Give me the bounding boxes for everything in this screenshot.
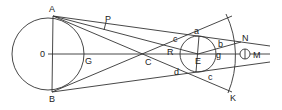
label-p: P (105, 14, 111, 24)
diameter-ab (52, 16, 53, 92)
arc-n-k (226, 14, 235, 93)
label-g: G (85, 56, 92, 66)
label-a: A (49, 4, 55, 14)
label-g-small: g (216, 50, 221, 60)
label-c: C (145, 57, 152, 67)
label-e: E (195, 56, 201, 66)
diagram-canvas: A B 0 G P C R E a b c c d g N M K (0, 0, 282, 110)
label-o: 0 (40, 49, 45, 59)
tangent-lower-outer (52, 62, 270, 92)
label-b-small: b (218, 39, 223, 49)
geometry-diagram: A B 0 G P C R E a b c c d g N M K (0, 0, 282, 110)
label-c-lower: c (208, 72, 213, 82)
label-k: K (230, 93, 236, 103)
tangent-upper-outer (53, 16, 270, 46)
label-c-upper: c (173, 34, 178, 44)
label-d: d (174, 67, 179, 77)
label-a-small: a (194, 26, 199, 36)
label-b: B (49, 94, 55, 104)
label-r: R (167, 47, 174, 57)
label-m: M (253, 50, 261, 60)
label-n: N (242, 33, 249, 43)
